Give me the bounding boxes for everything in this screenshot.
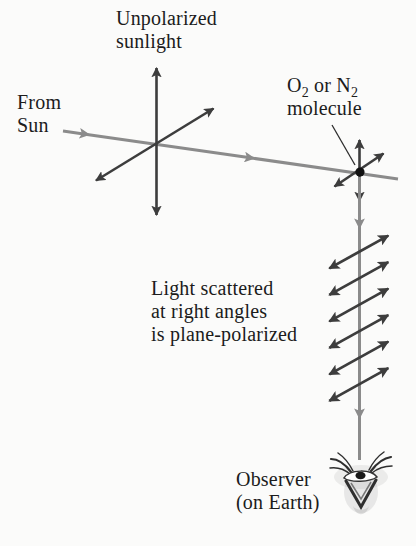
molecule-label-line2: molecule <box>287 97 362 120</box>
sun-ray <box>63 131 398 179</box>
efield-diagonal-arrow <box>96 109 214 181</box>
molecule-label-line1: O2 or N2 <box>287 74 362 97</box>
scattered-light-label-line3: is plane-polarized <box>151 323 297 346</box>
molecule-formula-or-n: or N <box>309 74 351 96</box>
observer-label-line1: Observer <box>236 468 320 491</box>
from-sun-label: From Sun <box>17 91 61 137</box>
unpolarized-sunlight-label: Unpolarized sunlight <box>116 7 217 53</box>
observer-label: Observer (on Earth) <box>236 468 320 514</box>
scattered-light-label: Light scattered at right angles is plane… <box>151 277 297 346</box>
molecule-dot <box>355 167 364 176</box>
scattered-light-label-line1: Light scattered <box>151 277 297 300</box>
unpolarized-sunlight-label-line2: sunlight <box>116 30 217 53</box>
observer-label-line2: (on Earth) <box>236 491 320 514</box>
molecule-label: O2 or N2 molecule <box>287 74 362 120</box>
eye-icon <box>330 452 392 514</box>
from-sun-label-line1: From <box>17 91 61 114</box>
scattered-light-label-line2: at right angles <box>151 300 297 323</box>
molecule-pointer-line <box>332 125 355 165</box>
from-sun-label-line2: Sun <box>17 114 61 137</box>
molecule-formula-o: O <box>287 74 302 96</box>
unpolarized-sunlight-label-line1: Unpolarized <box>116 7 217 30</box>
light-scattering-polarization-diagram: Unpolarized sunlight From Sun O2 or N2 m… <box>0 0 416 546</box>
unpolarized-efield-arrows <box>96 68 214 215</box>
